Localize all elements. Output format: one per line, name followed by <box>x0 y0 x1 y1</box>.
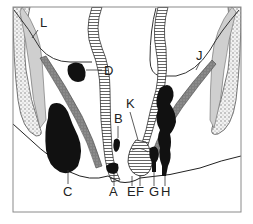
label-A: A <box>109 184 118 199</box>
label-C: C <box>63 184 72 199</box>
label-G: G <box>149 184 159 199</box>
fistula-H-and-K-tract <box>156 85 176 176</box>
abscess-D-pelvirectal <box>68 62 86 82</box>
abscess-B-submucosal <box>113 138 120 152</box>
anorectal-abscess-fistula-diagram: L D B K J C A E F G H <box>0 0 253 224</box>
label-J: J <box>196 48 203 63</box>
label-B: B <box>114 111 123 126</box>
label-H: H <box>161 184 170 199</box>
label-K: K <box>126 96 135 111</box>
label-E: E <box>127 184 136 199</box>
label-D: D <box>104 63 113 78</box>
label-F: F <box>136 184 144 199</box>
label-L: L <box>40 15 47 30</box>
sphincter-right <box>128 140 152 176</box>
